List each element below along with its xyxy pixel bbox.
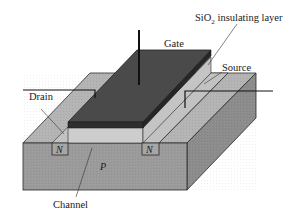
substrate-label: P bbox=[99, 161, 106, 172]
mosfet-diagram: N N P SiO2 insulating layer Gate Source … bbox=[0, 0, 293, 215]
gate-label: Gate bbox=[164, 38, 184, 49]
n-label-drain: N bbox=[55, 144, 64, 155]
channel-label: Channel bbox=[53, 199, 88, 210]
sio2-label: SiO2 insulating layer bbox=[195, 12, 283, 26]
sio2-layer-front bbox=[68, 127, 143, 143]
gate-front-face bbox=[68, 122, 143, 128]
source-label: Source bbox=[222, 62, 251, 73]
drain-label: Drain bbox=[29, 91, 54, 102]
n-label-source: N bbox=[145, 144, 154, 155]
sio2-leader-line bbox=[208, 24, 237, 65]
